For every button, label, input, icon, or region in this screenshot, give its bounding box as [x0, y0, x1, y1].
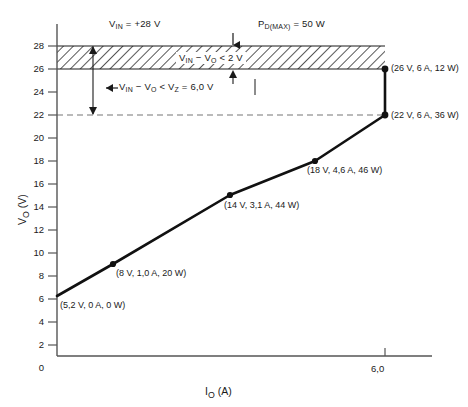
- x-tick-label-6: 6,0: [371, 363, 384, 374]
- y-tick-label-6: 6: [26, 293, 44, 304]
- zener-annotation-mid: − V: [133, 81, 151, 92]
- band-annotation-sub2: O: [211, 57, 217, 64]
- y-tick-label-4: 4: [26, 316, 44, 327]
- y-tick-label-24: 24: [26, 86, 44, 97]
- y-tick-label-8: 8: [26, 270, 44, 281]
- y-tick-label-26: 26: [26, 63, 44, 74]
- y-tick-label-22: 22: [26, 109, 44, 120]
- zener-annotation-mid2: < V: [157, 81, 175, 92]
- data-point-label-14v: (14 V, 3,1 A, 44 W): [224, 200, 299, 210]
- pdmax-annotation-main: P: [258, 18, 265, 29]
- y-tick-label-0: 0: [26, 362, 44, 373]
- vin-annotation: VIN = +28 V: [109, 19, 160, 29]
- zener-annotation-sub: IN: [126, 86, 133, 93]
- zener-annotation-sub3: Z: [175, 86, 179, 93]
- data-point-label-26v: (26 V, 6 A, 12 W): [391, 63, 459, 73]
- x-axis-title: IO (A): [205, 385, 232, 400]
- vin-annotation-main: V: [109, 18, 116, 29]
- pdmax-annotation-sub: D(MAX): [265, 23, 291, 30]
- y-axis-title-main: V: [16, 218, 28, 225]
- data-point-label-8v: (8 V, 1,0 A, 20 W): [116, 268, 186, 278]
- zener-annotation-sub2: O: [151, 86, 157, 93]
- zener-annotation: VIN − VO < VZ = 6,0 V: [119, 82, 214, 92]
- y-axis-title-unit: (V): [16, 194, 28, 211]
- x-axis-title-sub: O: [208, 390, 215, 400]
- pdmax-annotation-rest: = 50 W: [291, 18, 325, 29]
- y-tick-label-2: 2: [26, 339, 44, 350]
- y-axis-title: VO (V): [16, 194, 31, 225]
- y-tick-label-10: 10: [26, 247, 44, 258]
- data-point-label-22v: (22 V, 6 A, 36 W): [391, 110, 459, 120]
- band-annotation-sub: IN: [186, 57, 193, 64]
- dimension-arrows: [89, 33, 255, 115]
- figure-canvas: 28 26 24 22 20 18 16 14 12 10 8 6 4 2 0 …: [0, 0, 468, 407]
- band-annotation-main: V: [179, 52, 186, 63]
- zener-annotation-main: V: [119, 81, 126, 92]
- vin-annotation-sub: IN: [116, 23, 123, 30]
- data-point-label-18v: (18 V, 4,6 A, 46 W): [307, 165, 382, 175]
- y-tick-label-18: 18: [26, 155, 44, 166]
- y-tick-label-28: 28: [26, 40, 44, 51]
- vin-annotation-rest: = +28 V: [123, 18, 161, 29]
- band-annotation-tail: < 2 V: [217, 52, 243, 63]
- operating-line: [57, 69, 385, 296]
- y-tick-label-20: 20: [26, 132, 44, 143]
- x-axis: [57, 348, 432, 356]
- pdmax-annotation: PD(MAX) = 50 W: [258, 19, 325, 29]
- y-axis-title-sub: O: [21, 211, 31, 218]
- zener-annotation-tail: = 6,0 V: [179, 81, 214, 92]
- data-point-label-5p2v: (5,2 V, 0 A, 0 W): [60, 300, 125, 310]
- x-axis-title-unit: (A): [215, 385, 232, 397]
- y-axis: [48, 24, 57, 356]
- y-tick-label-12: 12: [26, 224, 44, 235]
- band-annotation-mid: − V: [193, 52, 211, 63]
- dropout-band-annotation: VIN − VO < 2 V: [176, 52, 246, 64]
- y-tick-label-16: 16: [26, 178, 44, 189]
